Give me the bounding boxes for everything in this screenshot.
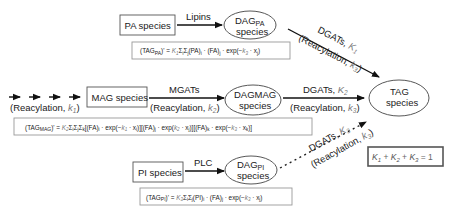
pa-species-label: PA species xyxy=(125,20,172,31)
mag-species-label: MAG species xyxy=(92,92,149,103)
dagmag-species-label: species xyxy=(239,100,271,111)
plc-label: PLC xyxy=(194,157,213,168)
pi-species-label: PI species xyxy=(138,167,182,178)
lipins-label: Lipins xyxy=(186,11,211,22)
dgat-reacyl-k3-label-mag: (Reacylation, k3) xyxy=(290,102,360,114)
dag-pa-species-label: species xyxy=(236,26,268,37)
tag-species-label: species xyxy=(386,97,418,108)
pa-pathway: PA species Lipins DAGPA species (TAGPA)'… xyxy=(120,11,379,77)
dag-pi-species-label: species xyxy=(237,170,269,181)
mgats-label: MGATs xyxy=(169,84,200,95)
dgat-k2-label: DGATs, K2 xyxy=(303,84,348,96)
mag-pathway: (Reacylation, k1) MAG species MGATs (Rea… xyxy=(9,84,364,135)
lipid-pathway-diagram: PA species Lipins DAGPA species (TAGPA)'… xyxy=(0,0,449,215)
constraint-equation: K1 + K2 + K3 = 1 xyxy=(372,152,433,163)
tag-target: TAG species xyxy=(369,80,429,116)
upstream-reacyl-label: (Reacylation, k1) xyxy=(10,102,80,114)
mgat-reacyl-label: (Reacylation, k2) xyxy=(150,102,220,114)
tag-label: TAG xyxy=(390,86,409,97)
dagmag-label: DAGMAG xyxy=(234,89,276,100)
constraint-box: K1 + K2 + K3 = 1 xyxy=(368,147,443,166)
